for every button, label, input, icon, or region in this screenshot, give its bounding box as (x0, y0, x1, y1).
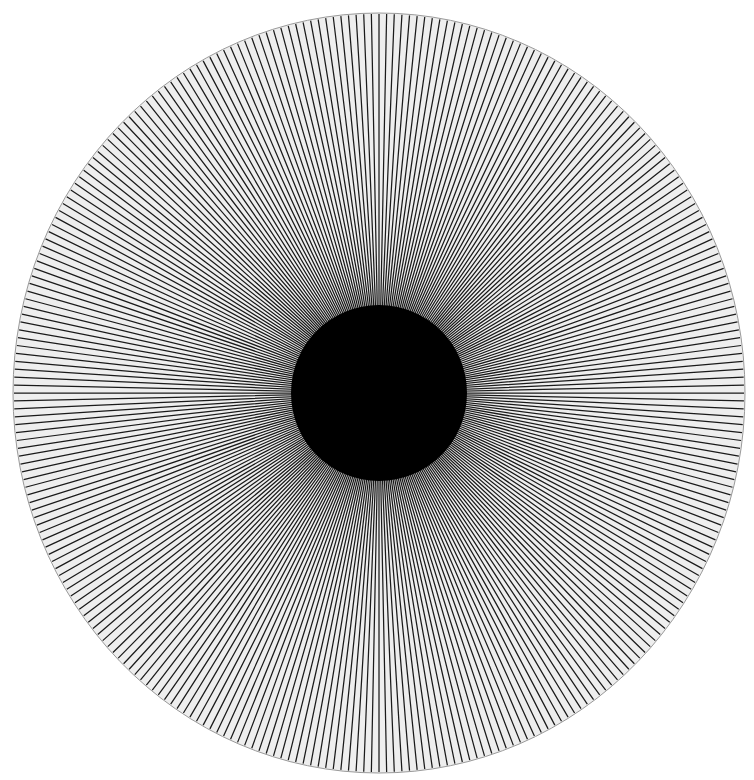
radial-line-pattern (0, 0, 754, 780)
center-core (291, 305, 467, 481)
